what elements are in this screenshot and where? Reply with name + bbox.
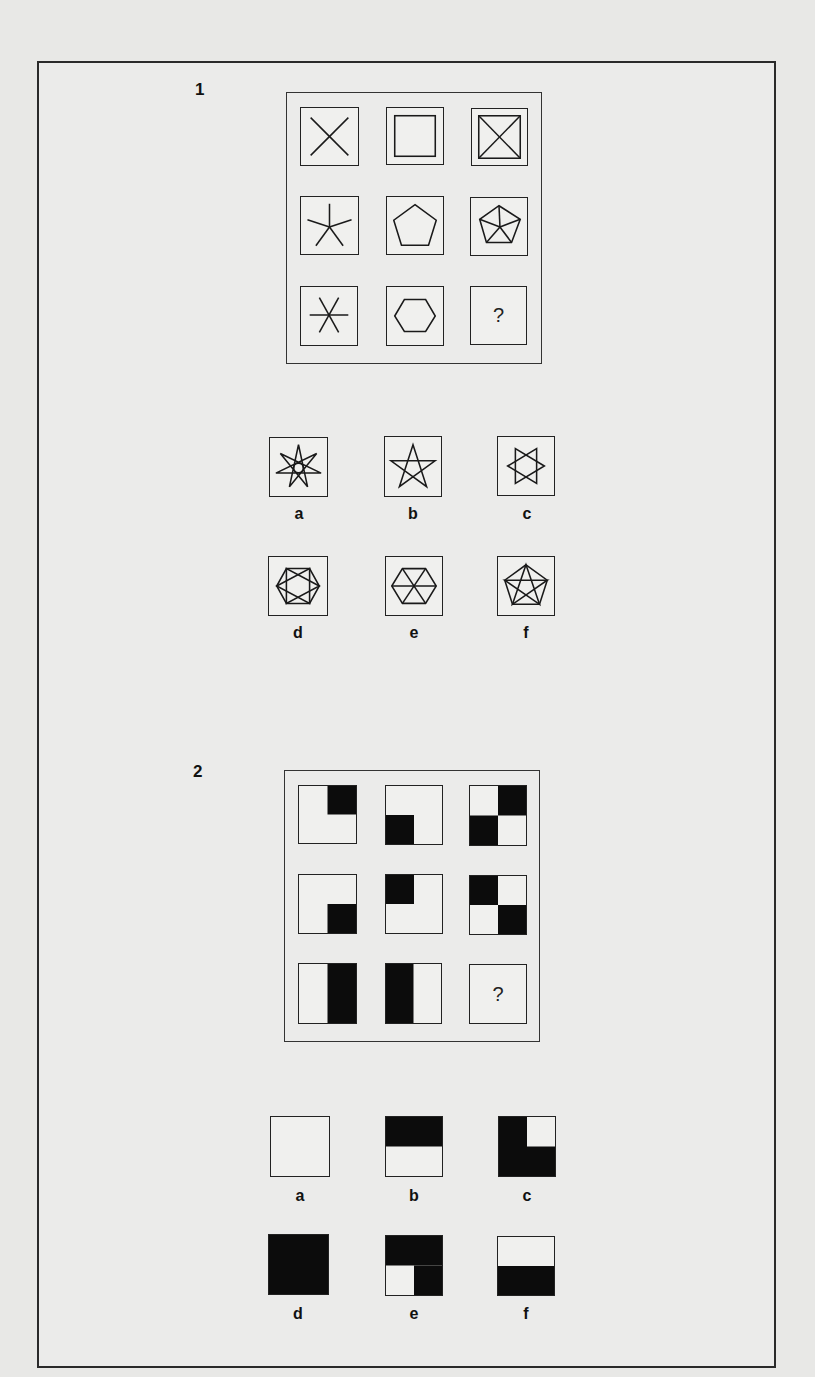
puzzle-2-cell-3-3-missing: ? [469,964,527,1024]
option-label-f: f [511,624,541,642]
puzzle-1-cell-2-3 [470,197,528,256]
puzzle-2-option-f[interactable] [497,1236,555,1296]
black-except-top-right-icon [499,1117,555,1176]
puzzle-1-option-b[interactable] [384,436,442,497]
diagonal-black-icon [470,786,526,845]
option-label-b: b [398,505,428,523]
puzzle-2-cell-1-2 [385,785,443,845]
bottom-right-black-icon [299,875,356,933]
question-mark: ? [470,965,526,1023]
puzzle-1-number: 1 [195,80,204,100]
pentagon-with-pentagram-icon [498,557,554,615]
puzzle-1-cell-1-1 [300,107,359,166]
puzzle-2-cell-2-2 [385,874,443,934]
puzzle-1-cell-1-2 [386,107,444,165]
pentagon-icon [387,197,443,254]
five-spoke-star-icon [301,197,358,254]
puzzle-1-cell-1-3 [471,108,528,166]
square-in-square-icon [387,108,443,164]
top-right-black-icon [299,786,356,843]
top-left-black-icon [386,875,442,933]
puzzle-2-cell-2-1 [298,874,357,934]
black-except-bottom-left-icon [386,1236,442,1295]
puzzle-1-cell-3-1 [300,286,358,346]
puzzle-1-option-d[interactable] [268,556,328,616]
all-black-icon [269,1235,328,1294]
pentagon-with-spokes-icon [471,198,527,255]
option-label-c: c [512,1187,542,1205]
option-label-e: e [399,1305,429,1323]
puzzle-1-cell-3-2 [386,286,444,346]
all-white-icon [271,1117,329,1176]
hexagon-with-spokes-icon [386,557,442,615]
puzzle-1-option-a[interactable] [269,437,328,497]
right-half-black-icon [299,964,356,1023]
puzzle-1-option-c[interactable] [497,436,555,496]
option-label-f: f [511,1305,541,1323]
question-mark: ? [471,287,526,344]
puzzle-2-cell-2-3 [469,875,527,935]
bottom-half-black-icon [498,1237,554,1295]
option-label-b: b [399,1187,429,1205]
option-label-d: d [283,624,313,642]
top-half-black-icon [386,1117,442,1176]
hexagon-with-star-icon [269,557,327,615]
puzzle-1-cell-3-3-missing: ? [470,286,527,345]
left-half-black-icon [386,964,441,1023]
square-with-diagonals-icon [472,109,527,165]
bottom-left-black-icon [386,786,442,844]
puzzle-2-option-b[interactable] [385,1116,443,1177]
six-spoke-star-icon [301,287,357,345]
anti-diagonal-black-icon [470,876,526,934]
puzzle-2-option-e[interactable] [385,1235,443,1296]
five-pointed-star-icon [385,437,441,496]
option-label-a: a [285,1187,315,1205]
puzzle-2-cell-1-3 [469,785,527,846]
hexagon-icon [387,287,443,345]
option-label-c: c [512,505,542,523]
x-cross-icon [301,108,358,165]
option-label-d: d [283,1305,313,1323]
seven-pointed-star-icon [270,438,327,496]
puzzle-1-option-f[interactable] [497,556,555,616]
option-label-e: e [399,624,429,642]
puzzle-2-number: 2 [193,762,202,782]
puzzle-2-cell-3-1 [298,963,357,1024]
puzzle-2-cell-1-1 [298,785,357,844]
option-label-a: a [284,505,314,523]
puzzle-1-option-e[interactable] [385,556,443,616]
puzzle-1-cell-2-2 [386,196,444,255]
six-pointed-star-icon [498,437,554,495]
puzzle-2-cell-3-2 [385,963,442,1024]
puzzle-1-cell-2-1 [300,196,359,255]
puzzle-2-option-c[interactable] [498,1116,556,1177]
puzzle-2-option-a[interactable] [270,1116,330,1177]
puzzle-2-option-d[interactable] [268,1234,329,1295]
